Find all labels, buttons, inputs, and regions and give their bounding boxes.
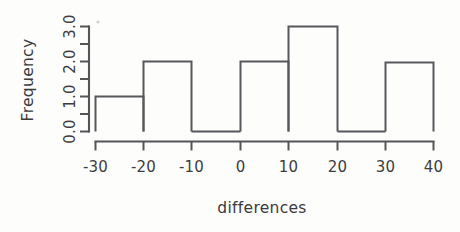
x-tick-label-20: 20 [328,158,348,176]
x-axis: -30 -20 -10 0 10 20 30 40 differences [83,142,443,218]
bars-group [96,27,434,132]
x-tick-label--10: -10 [179,158,204,176]
x-tick-label-40: 40 [424,158,444,176]
x-tick-label-10: 10 [279,158,299,176]
x-tick-label--30: -30 [83,158,108,176]
histogram-plot: 0.0 1.0 2.0 3.0 Frequency [0,0,460,232]
y-tick-label-3: 3.0 [61,14,79,38]
x-axis-title: differences [217,199,306,217]
y-tick-label-0: 0.0 [61,119,79,143]
y-axis-title: Frequency [19,39,37,122]
y-tick-label-1: 1.0 [61,84,79,108]
plot-canvas: 0.0 1.0 2.0 3.0 Frequency [0,0,460,232]
x-tick-label-30: 30 [376,158,396,176]
bar-bin-0-10 [241,62,289,132]
y-tick-label-2: 2.0 [61,49,79,73]
x-tick-label-0: 0 [236,158,246,176]
y-axis: 0.0 1.0 2.0 3.0 Frequency [19,14,90,143]
x-tick-label--20: -20 [131,158,156,176]
bar-bin--30--20 [96,97,144,132]
bar-bin-30-40 [386,63,434,132]
scan-speck [96,20,99,23]
bar-bin-10-20 [289,27,338,132]
bar-bin--20--10 [144,62,192,132]
